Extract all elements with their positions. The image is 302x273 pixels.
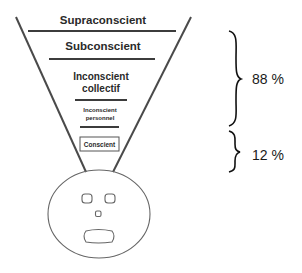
nose-icon: [96, 211, 102, 217]
left-eye-icon: [82, 194, 92, 203]
brace-88-icon: [229, 31, 241, 126]
head-outline: [48, 170, 150, 258]
level-label-inconscient-personnel-line1: Inconscient: [83, 107, 116, 113]
level-label-inconscient-personnel-line2: personnel: [86, 115, 115, 121]
level-label-inconscient-collectif-line1: Inconscient: [73, 71, 129, 82]
level-label-supraconscient: Supraconscient: [60, 14, 146, 26]
brace-12-icon: [229, 131, 240, 172]
percentage-12: 12 %: [252, 147, 284, 163]
level-label-subconscient: Subconscient: [65, 40, 141, 52]
level-label-inconscient-collectif-line2: collectif: [82, 83, 120, 94]
mouth-icon: [84, 230, 114, 244]
mind-funnel-diagram: Supraconscient Subconscient Inconscient …: [0, 0, 302, 273]
percentage-88: 88 %: [252, 71, 284, 87]
right-eye-icon: [105, 194, 115, 203]
level-label-conscient: Conscient: [84, 141, 116, 148]
